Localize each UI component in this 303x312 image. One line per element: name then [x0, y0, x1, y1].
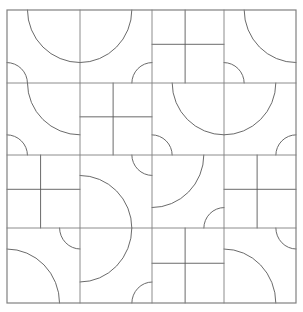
truchet-pattern-canvas: [0, 0, 303, 312]
pattern-figure: [0, 0, 303, 312]
